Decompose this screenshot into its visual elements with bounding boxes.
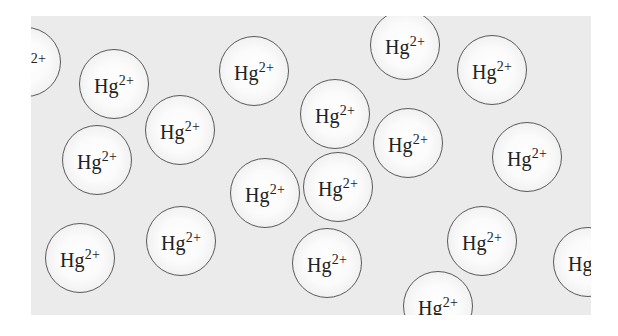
ion-label: Hg2+ [94,76,134,96]
hg-ion-5: Hg2+ [219,36,289,106]
hg-ion-11: Hg2+ [230,158,300,228]
hg-ion-13: Hg2+ [45,223,115,293]
hg-ion-2: Hg2+ [79,49,149,119]
hg-ion-10: Hg2+ [492,122,562,192]
hg-ion-12: Hg2+ [303,152,373,222]
hg-ion-4: Hg2+ [62,125,132,195]
ion-label: Hg2+ [307,255,347,275]
hg-ion-14: Hg2+ [146,206,216,276]
hg-ion-16: Hg2+ [447,206,517,276]
hg-ion-9: Hg2+ [373,108,443,178]
ion-label: Hg2+ [418,298,458,315]
ion-label: Hg2+ [234,63,274,83]
ion-label: Hg2+ [318,179,358,199]
hg-ion-17: Hg2+ [403,271,473,315]
ion-label: Hg2+ [507,149,547,169]
ion-label: Hg2+ [60,250,100,270]
hg-ion-15: Hg2+ [292,228,362,298]
hg-ion-1: Hg2+ [31,27,61,97]
hg-ion-7: Hg2+ [370,16,440,80]
hg-ion-18: Hg2+ [553,227,591,297]
ion-label: Hg2+ [315,106,355,126]
ion-label: Hg2+ [568,254,591,274]
hg-ion-3: Hg2+ [145,95,215,165]
ion-label: Hg2+ [462,233,502,253]
ion-label: Hg2+ [161,233,201,253]
hg-ion-6: Hg2+ [300,79,370,149]
diagram-panel: Hg2+ Hg2+ Hg2+ Hg2+ Hg2+ Hg2+ Hg2+ Hg2+ … [31,16,591,315]
ion-label: Hg2+ [245,185,285,205]
ion-label: Hg2+ [77,152,117,172]
ion-label: Hg2+ [385,37,425,57]
ion-label: Hg2+ [388,135,428,155]
ion-label: Hg2+ [31,54,46,74]
hg-ion-8: Hg2+ [457,35,527,105]
ion-label: Hg2+ [160,122,200,142]
ion-label: Hg2+ [472,62,512,82]
